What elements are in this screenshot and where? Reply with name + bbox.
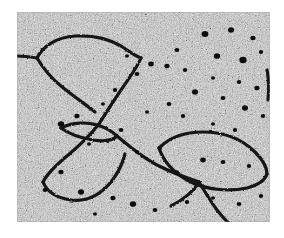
stain-particle: [87, 142, 91, 146]
stain-particle: [221, 96, 226, 100]
stain-particle: [175, 170, 179, 174]
stain-particle: [237, 80, 241, 84]
stain-particle: [145, 110, 149, 114]
stain-particle: [153, 208, 158, 212]
stain-particle: [221, 160, 226, 164]
stain-particle: [202, 31, 209, 37]
stain-particle: [183, 68, 187, 72]
stain-particle: [74, 114, 79, 119]
stain-particle: [261, 114, 265, 118]
stain-particle: [250, 36, 255, 41]
stain-particle: [192, 89, 198, 94]
stain-particle: [181, 114, 185, 118]
stain-particle: [78, 189, 84, 194]
stain-particle: [175, 48, 180, 52]
stain-particle: [58, 170, 63, 175]
stain-particle: [247, 164, 251, 168]
stain-particle: [101, 102, 105, 106]
stain-particle: [119, 128, 124, 132]
stain-particle: [211, 122, 215, 126]
stain-particle: [239, 57, 246, 63]
stain-particle: [259, 50, 263, 54]
dna-filament-right-edge-fragment: [267, 70, 269, 100]
stain-particle: [242, 105, 248, 110]
stain-particle: [214, 53, 220, 59]
stain-particle: [211, 196, 215, 200]
stain-particle: [228, 27, 234, 32]
stain-particle: [254, 86, 259, 91]
stain-particle: [110, 196, 115, 201]
stain-particle: [200, 158, 206, 163]
stain-particle: [164, 64, 169, 69]
stain-particle: [211, 76, 215, 80]
stain-particle: [130, 201, 136, 207]
stain-particle: [113, 88, 117, 92]
stain-particle: [237, 202, 242, 206]
stain-particle: [148, 62, 154, 67]
stain-particle: [233, 128, 237, 132]
stain-particle: [135, 72, 140, 76]
stain-particle: [167, 102, 172, 106]
stain-particle: [93, 212, 97, 216]
stain-particle: [259, 194, 263, 198]
electron-micrograph-plate: [17, 12, 270, 222]
stain-particle: [185, 200, 189, 204]
stain-particle: [58, 121, 64, 127]
stain-particle: [43, 188, 48, 192]
micrograph-image: [17, 12, 270, 222]
stain-particle: [135, 150, 139, 154]
stain-particle: [125, 54, 129, 58]
page-canvas: spread DNA / chromatin filaments with br…: [0, 0, 284, 238]
